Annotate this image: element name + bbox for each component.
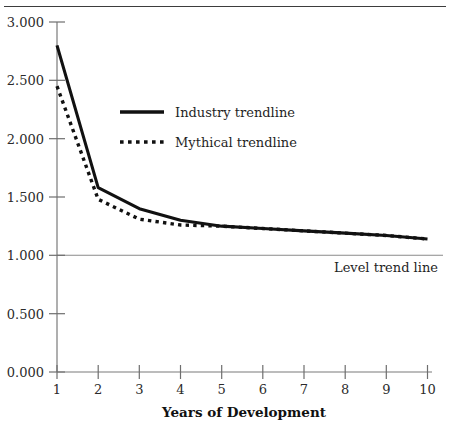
x-tick-label-10: 10 — [419, 382, 436, 397]
x-tick-label-8: 8 — [341, 382, 349, 397]
x-tick-label-7: 7 — [300, 382, 308, 397]
chart-legend: Industry trendline Mythical trendline — [120, 105, 297, 150]
y-tick-label-0000: 0.000 — [7, 365, 44, 380]
x-tick-label-9: 9 — [382, 382, 390, 397]
x-axis-title: Years of Development — [161, 404, 327, 420]
y-tick-label-1000: 1.000 — [7, 248, 44, 263]
chart-figure: 3.000 2.500 2.000 1.500 1.000 0.500 0.00… — [0, 0, 450, 429]
legend-label-industry-trendline: Industry trendline — [175, 105, 295, 120]
level-trend-line-annotation: Level trend line — [334, 260, 438, 275]
y-tick-label-1500: 1.500 — [7, 190, 44, 205]
x-tick-label-4: 4 — [176, 382, 184, 397]
y-tick-label-0500: 0.500 — [7, 307, 44, 322]
x-tick-label-3: 3 — [135, 382, 143, 397]
x-tick-label-1: 1 — [53, 382, 61, 397]
y-tick-label-2500: 2.500 — [7, 73, 44, 88]
y-tick-label-3000: 3.000 — [7, 15, 44, 30]
x-tick-label-2: 2 — [94, 382, 102, 397]
x-tick-label-5: 5 — [218, 382, 226, 397]
y-tick-label-2000: 2.000 — [7, 132, 44, 147]
top-divider-rule — [4, 6, 446, 7]
line-chart-canvas: 3.000 2.500 2.000 1.500 1.000 0.500 0.00… — [0, 0, 450, 429]
legend-label-mythical-trendline: Mythical trendline — [175, 135, 297, 150]
x-tick-label-6: 6 — [259, 382, 267, 397]
